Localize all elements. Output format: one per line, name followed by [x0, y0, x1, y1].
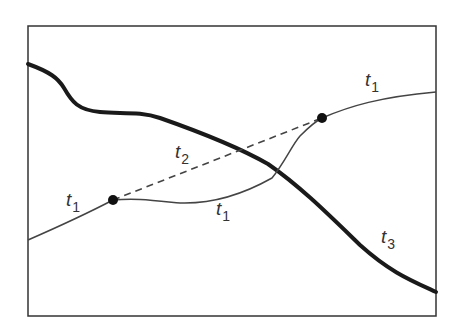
right-point-marker [317, 113, 327, 123]
label-t1-left: t1 [66, 189, 80, 215]
curve-t3 [28, 64, 436, 292]
label-t2: t2 [175, 141, 189, 167]
trajectory-diagram: t1 t2 t1 t1 t3 [0, 0, 459, 333]
label-t3: t3 [381, 226, 395, 252]
curve-t1 [28, 92, 436, 240]
label-t1-mid: t1 [216, 198, 230, 224]
frame-border [28, 26, 436, 316]
left-point-marker [108, 195, 118, 205]
segment-t2 [113, 118, 322, 200]
label-t1-right: t1 [365, 69, 379, 95]
